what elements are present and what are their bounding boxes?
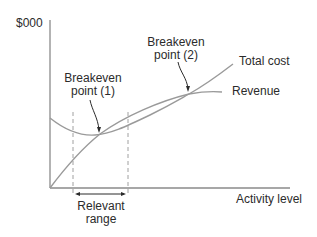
- y-axis-label: $000: [16, 17, 43, 30]
- arrow-left-icon: [75, 192, 80, 196]
- revenue-curve: [50, 92, 222, 188]
- breakeven-1-label: Breakeven point (1): [60, 72, 126, 98]
- breakeven-2-label-line2: point (2): [143, 49, 209, 62]
- arrow-right-icon: [121, 192, 126, 196]
- breakeven-2-arrow-icon: [186, 86, 190, 92]
- relevant-range-label-line2: range: [70, 213, 132, 226]
- breakeven-1-label-line2: point (1): [60, 85, 126, 98]
- total-cost-label: Total cost: [239, 55, 290, 68]
- breakeven-1-arrow-icon: [97, 127, 101, 133]
- breakeven-2-pointer: [178, 62, 188, 89]
- x-axis-label: Activity level: [236, 193, 302, 206]
- relevant-range-label: Relevant range: [70, 200, 132, 226]
- revenue-label: Revenue: [232, 85, 280, 98]
- breakeven-2-label: Breakeven point (2): [143, 36, 209, 62]
- breakeven-1-pointer: [90, 100, 99, 130]
